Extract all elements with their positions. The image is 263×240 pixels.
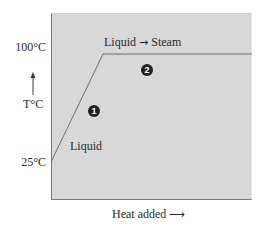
y-axis-label: T°C [23,98,43,110]
right-arrow-icon: ⟶ [169,209,185,220]
x-axis-label-group: Heat added ⟶ [112,208,185,220]
marker-1: 1 [88,105,100,117]
y-tick-25: 25°C [0,156,46,168]
phase-change-to: Steam [151,35,181,49]
right-arrow-icon: → [139,37,148,49]
phase-change-label: Liquid → Steam [104,36,181,49]
liquid-region-label: Liquid [70,140,102,152]
marker-2: 2 [141,64,153,76]
x-axis-label: Heat added [112,207,166,220]
y-axis-up-arrow-head [31,72,36,78]
phase-change-from: Liquid [104,35,136,49]
y-tick-100: 100°C [0,41,46,53]
